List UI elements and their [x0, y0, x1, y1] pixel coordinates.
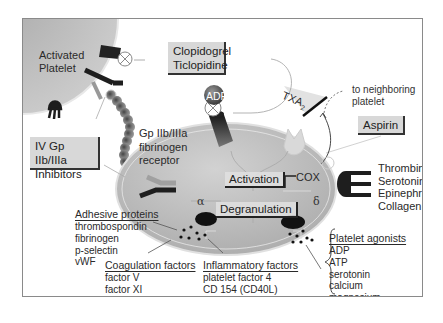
inflammatory-factors-title: Inflammatory factors [203, 258, 298, 272]
degranulation-label: Degranulation [216, 202, 298, 218]
gp-receptor-line1: Gp IIb/IIIa [139, 127, 187, 141]
coagulation-item: factor XI [105, 284, 195, 296]
clopidogrel-ticlopidine-box: Clopidogrel Ticlopidine [168, 42, 226, 75]
agonist-epinephrine: Epinephrine [378, 187, 423, 200]
aspirin-box: Aspirin [358, 116, 405, 135]
agonist-serotonin: Serotonin [378, 175, 423, 188]
to-neighboring-line2: platelet [352, 96, 415, 108]
to-neighboring-platelet-label: to neighboring platelet [352, 84, 415, 108]
gp-receptor-label: Gp IIb/IIIa fibrinogen receptor [139, 127, 187, 168]
coagulation-factors-title: Coagulation factors [105, 258, 195, 272]
gp-receptor-line3: receptor [139, 154, 187, 168]
iv-gp-inhibitors-line2: Inhibitors [35, 167, 93, 181]
coagulation-item: factor V [105, 272, 195, 284]
gp-receptor-line2: fibrinogen [139, 141, 187, 155]
txa2-receptor [284, 129, 305, 155]
activating-agonists-list: Thrombin Serotonin Epinephrine Collagen [378, 162, 423, 212]
platelet-agonist-item: magnesium [329, 292, 406, 297]
diagram-frame: Activated Platelet Clopidogrel Ticlopidi… [22, 18, 423, 297]
platelet-agonist-item: ADP [329, 245, 406, 257]
ticlopidine-label: Ticlopidine [173, 58, 219, 72]
aspirin-label: Aspirin [363, 119, 398, 131]
activated-platelet-label-line2: Platelet [39, 62, 84, 75]
to-neighboring-arrow [324, 91, 343, 113]
inflammatory-factors-list: Inflammatory factors platelet factor 4 C… [203, 258, 298, 297]
iv-gp-inhibitors-box: IV Gp IIb/IIIa Inhibitors [30, 137, 100, 170]
adhesive-item: p-selectin [75, 245, 158, 257]
platelet-agonist-item: serotonin [329, 269, 406, 281]
platelet-agonists-title: Platelet agonists [329, 231, 406, 245]
inflammatory-item: PDGF [203, 296, 298, 297]
to-neighboring-line1: to neighboring [352, 84, 415, 96]
activation-label: Activation [225, 172, 285, 188]
activated-platelet-label-line1: Activated [39, 49, 84, 62]
agonist-thrombin: Thrombin [378, 162, 423, 175]
agonist-comb-receptor [337, 171, 371, 197]
delta-granule-label: δ [313, 195, 320, 208]
platelet-agonists-list: Platelet agonists ADP ATP serotonin calc… [329, 231, 406, 297]
platelet-agonist-item: ATP [329, 257, 406, 269]
adhesive-proteins-title: Adhesive proteins [75, 207, 158, 221]
iv-gp-inhibitors-line1: IV Gp IIb/IIIa [35, 139, 93, 167]
left-platelet-comb-receptor [49, 102, 61, 120]
adhesive-item: fibrinogen [75, 233, 158, 245]
agonist-collagen: Collagen [378, 200, 423, 213]
coagulation-factors-list: Coagulation factors factor V factor XI P… [105, 258, 195, 297]
inflammatory-item: CD 154 (CD40L) [203, 284, 298, 296]
inflammatory-item: platelet factor 4 [203, 272, 298, 284]
adp-label: ADP [206, 90, 228, 103]
adhesive-item: thrombospondin [75, 221, 158, 233]
activated-platelet-label: Activated Platelet [39, 49, 84, 75]
cox-label: COX [296, 171, 320, 184]
platelet-agonist-item: calcium [329, 280, 406, 292]
alpha-granule-label: α [197, 195, 204, 208]
clopidogrel-label: Clopidogrel [173, 44, 219, 58]
coagulation-item: PAI-1 [105, 296, 195, 297]
alpha-granule [195, 212, 217, 226]
